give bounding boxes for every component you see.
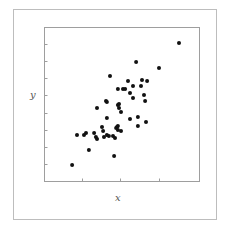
data-point xyxy=(70,163,74,167)
data-point xyxy=(100,125,104,129)
data-point xyxy=(128,91,132,95)
data-point xyxy=(134,60,138,64)
data-point xyxy=(139,84,143,88)
data-point xyxy=(143,99,147,103)
data-point xyxy=(177,41,181,45)
data-point xyxy=(112,154,116,158)
data-point xyxy=(123,87,127,91)
data-point xyxy=(105,100,109,104)
y-axis-label: y xyxy=(30,89,36,100)
data-point xyxy=(87,148,91,152)
plot-area xyxy=(45,28,200,182)
data-point xyxy=(117,102,121,106)
data-point xyxy=(116,87,120,91)
data-point xyxy=(136,124,140,128)
data-point xyxy=(126,79,130,83)
data-point xyxy=(157,66,161,70)
data-point xyxy=(136,115,140,119)
scatter-plot xyxy=(0,0,225,232)
data-point xyxy=(140,78,144,82)
data-point xyxy=(131,96,135,100)
data-point xyxy=(92,131,96,135)
data-point xyxy=(108,74,112,78)
data-point xyxy=(107,134,111,138)
data-point xyxy=(119,110,123,114)
data-point xyxy=(117,106,121,110)
data-point xyxy=(95,137,99,141)
data-point xyxy=(142,93,146,97)
data-point xyxy=(145,79,149,83)
data-point xyxy=(95,106,99,110)
data-point xyxy=(105,116,109,120)
data-point xyxy=(144,120,148,124)
data-point xyxy=(131,84,135,88)
x-axis-label: x xyxy=(115,192,121,203)
data-point xyxy=(116,128,120,132)
data-point xyxy=(84,131,88,135)
data-point xyxy=(128,117,132,121)
data-point xyxy=(75,133,79,137)
data-point xyxy=(113,136,117,140)
data-point xyxy=(101,129,105,133)
